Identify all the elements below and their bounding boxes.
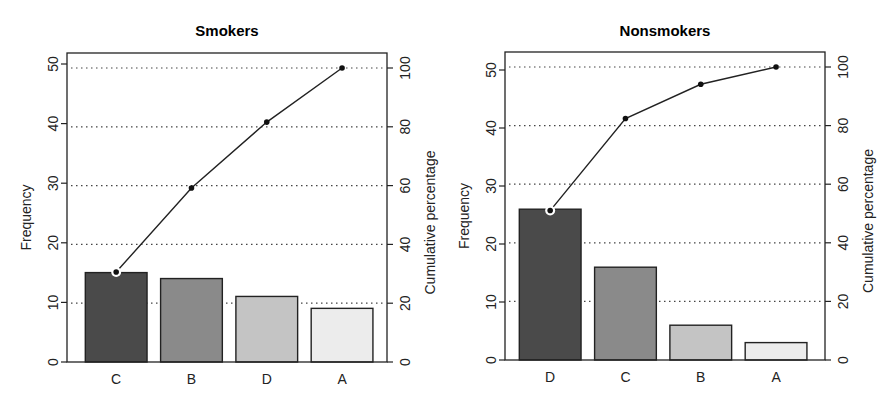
y-tick-label: 20 [45, 235, 61, 251]
cumulative-point [113, 269, 119, 275]
y-tick-label: 20 [483, 236, 499, 252]
x-tick-label: B [696, 369, 705, 385]
cumulative-point [698, 81, 704, 87]
y2-tick-label: 100 [397, 56, 413, 80]
y-tick-label: 40 [483, 120, 499, 136]
chart-nonsmokers: NonsmokersDCBA01020304050020406080100Fre… [456, 22, 876, 385]
x-tick-label: D [545, 369, 555, 385]
y2-tick-label: 20 [397, 295, 413, 311]
bar-B [161, 279, 223, 362]
y2-tick-label: 60 [397, 178, 413, 194]
cumulative-point [547, 208, 553, 214]
y2-tick-label: 40 [835, 235, 851, 251]
y2-tick-label: 60 [835, 176, 851, 192]
bar-A [745, 343, 807, 360]
x-tick-label: C [111, 371, 121, 387]
bar-B [670, 325, 732, 360]
pareto-charts: SmokersCBDA01020304050020406080100Freque… [0, 0, 894, 402]
x-tick-label: A [337, 371, 347, 387]
y2-axis-label: Cumulative percentage [860, 149, 876, 293]
chart-title: Nonsmokers [620, 22, 711, 39]
y-tick-label: 0 [483, 356, 499, 364]
y2-tick-label: 80 [397, 119, 413, 135]
cumulative-line [116, 68, 342, 272]
chart-title: Smokers [195, 22, 258, 39]
x-tick-label: D [262, 371, 272, 387]
y2-tick-label: 40 [397, 236, 413, 252]
y-tick-label: 0 [45, 358, 61, 366]
bar-D [236, 296, 298, 362]
y2-axis-label: Cumulative percentage [422, 150, 438, 294]
y-axis-label: Frequency [18, 184, 34, 250]
y-tick-label: 40 [45, 116, 61, 132]
y2-tick-label: 0 [397, 358, 413, 366]
bar-D [519, 209, 581, 360]
y2-tick-label: 80 [835, 118, 851, 134]
y-axis-label: Frequency [456, 183, 472, 249]
y2-tick-label: 100 [835, 55, 851, 79]
y-tick-label: 10 [45, 294, 61, 310]
y-tick-label: 30 [483, 178, 499, 194]
cumulative-point [189, 185, 195, 191]
cumulative-point [264, 119, 270, 125]
bar-C [85, 273, 147, 362]
cumulative-point [623, 116, 629, 122]
x-tick-label: C [620, 369, 630, 385]
cumulative-point [339, 65, 345, 71]
cumulative-point [773, 64, 779, 70]
cumulative-line [550, 67, 776, 211]
bar-A [311, 308, 373, 362]
y-tick-label: 50 [483, 62, 499, 78]
x-tick-label: A [771, 369, 781, 385]
y-tick-label: 50 [45, 56, 61, 72]
chart-smokers: SmokersCBDA01020304050020406080100Freque… [18, 22, 438, 387]
y-tick-label: 10 [483, 294, 499, 310]
x-tick-label: B [187, 371, 196, 387]
y2-tick-label: 0 [835, 356, 851, 364]
bar-C [595, 267, 657, 360]
y2-tick-label: 20 [835, 293, 851, 309]
y-tick-label: 30 [45, 175, 61, 191]
